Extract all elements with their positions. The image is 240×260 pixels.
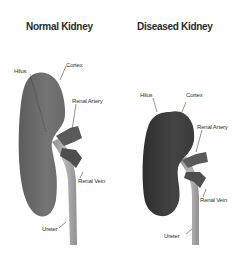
- label-cortex: Cortex: [186, 92, 202, 98]
- kidney-diagram: [0, 0, 240, 260]
- label-hilus: Hilus: [140, 92, 152, 98]
- normal-kidney-illustration: [19, 66, 83, 245]
- label-renal-vein: Renal Vein: [200, 197, 227, 203]
- label-renal-artery: Renal Artery: [197, 124, 228, 130]
- label-ureter: Ureter: [42, 226, 57, 232]
- ureter-shape: [180, 156, 199, 245]
- label-ureter: Ureter: [164, 233, 179, 239]
- diseased-kidney-illustration: [143, 98, 208, 245]
- label-renal-artery: Renal Artery: [72, 98, 103, 104]
- diseased-kidney-title: Diseased Kidney: [137, 21, 213, 32]
- label-hilus: Hilus: [14, 68, 26, 74]
- label-cortex: Cortex: [66, 62, 82, 68]
- normal-kidney-title: Normal Kidney: [26, 21, 93, 32]
- label-renal-vein: Renal Vein: [78, 178, 105, 184]
